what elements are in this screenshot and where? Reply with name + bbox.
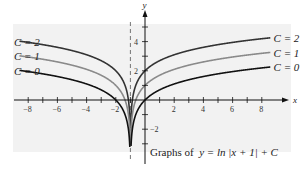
caption-formula: y = ln |x + 1| + C <box>199 146 278 158</box>
curve-label-right: C = 1 <box>274 47 300 59</box>
x-axis-arrow-icon <box>282 98 289 103</box>
curve-label-left: C = 2 <box>14 36 40 48</box>
curve-label-right: C = 0 <box>274 61 300 73</box>
y-tick-label: 2 <box>134 67 138 76</box>
chart: xy−8−6−4−22468−224C = 2C = 1C = 0C = 2C … <box>0 0 306 170</box>
y-axis-arrow-icon <box>143 10 148 17</box>
x-tick-label: −4 <box>82 105 91 114</box>
x-tick-label: −8 <box>23 105 32 114</box>
y-tick-label: 4 <box>134 38 138 47</box>
x-axis-label: x <box>292 95 297 105</box>
x-tick-label: 4 <box>201 105 205 114</box>
x-tick-label: −6 <box>52 105 61 114</box>
y-tick-label: −2 <box>150 125 159 134</box>
caption-prefix: Graphs of <box>150 146 194 158</box>
chart-caption: Graphs of y = ln |x + 1| + C <box>150 146 278 158</box>
curve-label-left: C = 0 <box>14 65 40 77</box>
curve-label-left: C = 1 <box>14 50 40 62</box>
x-tick-label: 2 <box>172 105 176 114</box>
x-tick-label: 8 <box>259 105 263 114</box>
x-tick-label: 6 <box>230 105 234 114</box>
x-tick-label: −2 <box>111 105 120 114</box>
curve-label-right: C = 2 <box>274 32 300 44</box>
y-axis-label: y <box>142 0 147 10</box>
